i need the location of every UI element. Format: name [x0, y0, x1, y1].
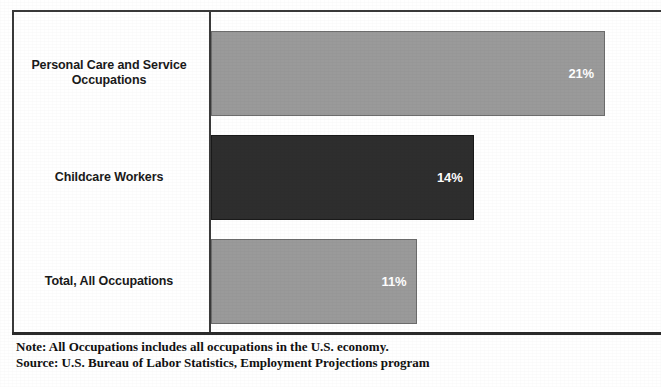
bar-value-label: 14% [437, 170, 472, 185]
category-label-childcare-workers: Childcare Workers [16, 170, 202, 185]
bar-childcare-workers: 14% [211, 135, 474, 220]
plot-area: 21% 14% 11% [211, 11, 661, 333]
bar-chart-figure: Personal Care and Service Occupations Ch… [0, 0, 661, 387]
bar-value-label: 11% [382, 274, 417, 289]
bar-personal-care: 21% [211, 31, 605, 116]
category-label-line1: Total, All Occupations [45, 274, 173, 288]
bar-value-label: 21% [568, 66, 603, 81]
category-label-total-all-occupations: Total, All Occupations [16, 274, 202, 289]
footnote-note: Note: All Occupations includes all occup… [16, 339, 616, 355]
bar-total-all-occupations: 11% [211, 239, 417, 324]
category-label-personal-care: Personal Care and Service Occupations [16, 58, 202, 88]
category-label-line1: Childcare Workers [55, 170, 164, 184]
footnote-block: Note: All Occupations includes all occup… [16, 339, 616, 371]
category-label-column: Personal Care and Service Occupations Ch… [12, 11, 208, 333]
footnote-source: Source: U.S. Bureau of Labor Statistics,… [16, 355, 616, 371]
category-label-line1: Personal Care and Service [31, 58, 186, 72]
category-label-line2: Occupations [72, 73, 147, 87]
